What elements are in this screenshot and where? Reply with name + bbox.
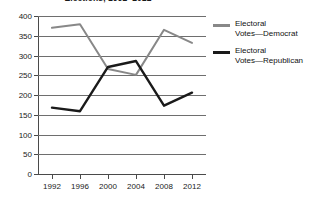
x-axis-tick-label: 1996: [71, 182, 89, 191]
x-axis-tick: [108, 174, 109, 179]
x-axis-tick: [52, 174, 53, 179]
series-lines: [38, 16, 206, 174]
y-axis-tick-label: 250: [0, 71, 32, 80]
y-axis-tick-label: 50: [0, 150, 32, 159]
legend-label-republican-line1: Electoral: [235, 46, 266, 55]
legend-label-republican: Electoral Votes—Republican: [235, 46, 303, 66]
x-axis-tick: [164, 174, 165, 179]
x-axis-tick: [192, 174, 193, 179]
x-axis-tick: [80, 174, 81, 179]
x-axis-tick-label: 2000: [99, 182, 117, 191]
chart-legend: Electoral Votes—Democrat Electoral Votes…: [213, 19, 319, 73]
legend-item-republican: Electoral Votes—Republican: [213, 46, 319, 66]
x-axis-tick-label: 2012: [183, 182, 201, 191]
x-axis-tick-label: 2008: [155, 182, 173, 191]
legend-swatch-democrat: [213, 24, 230, 27]
series-line: [52, 61, 192, 111]
y-axis-tick-label: 150: [0, 110, 32, 119]
x-axis-tick: [136, 174, 137, 179]
legend-item-democrat: Electoral Votes—Democrat: [213, 19, 319, 39]
chart-title: Elections, 1992–2012: [0, 0, 216, 3]
legend-swatch-republican: [213, 51, 230, 54]
legend-label-democrat: Electoral Votes—Democrat: [235, 19, 298, 39]
series-line: [52, 24, 192, 75]
x-axis-tick-label: 2004: [127, 182, 145, 191]
legend-label-democrat-line1: Electoral: [235, 19, 266, 28]
y-axis-tick-label: 300: [0, 51, 32, 60]
y-axis-tick: [34, 174, 38, 175]
legend-label-democrat-line2: Votes—Democrat: [235, 29, 298, 38]
y-axis-tick-label: 200: [0, 91, 32, 100]
x-axis-tick-label: 1992: [43, 182, 61, 191]
y-axis-tick-label: 0: [0, 170, 32, 179]
plot-area: 050100150200250300350400 199219962000200…: [38, 16, 206, 174]
y-axis-tick-label: 400: [0, 12, 32, 21]
legend-label-republican-line2: Votes—Republican: [235, 56, 303, 65]
gridline: [38, 174, 206, 175]
y-axis-tick-label: 100: [0, 130, 32, 139]
chart-container: Elections, 1992–2012 0501001502002503003…: [0, 0, 321, 197]
y-axis-tick-label: 350: [0, 31, 32, 40]
